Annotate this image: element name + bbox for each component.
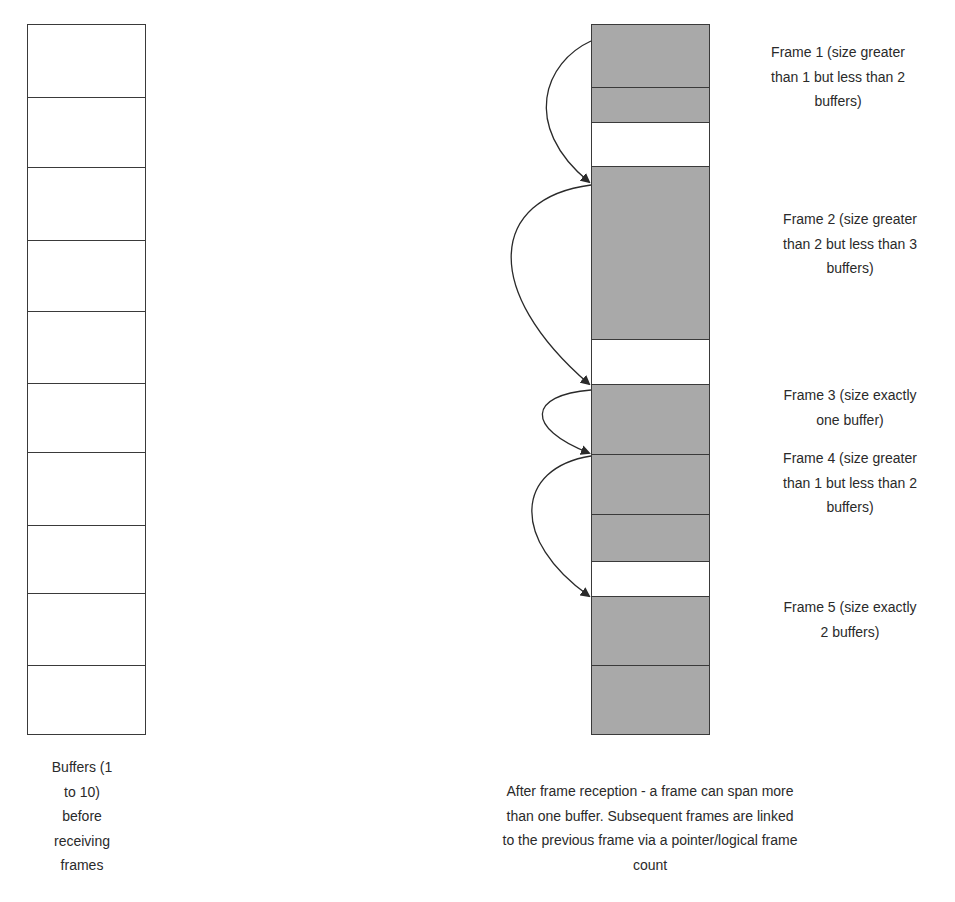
- caption-line: than one buffer. Subsequent frames are l…: [500, 804, 800, 829]
- annotation-line: buffers): [752, 495, 948, 520]
- annotation-line: than 1 but less than 2: [752, 471, 948, 496]
- caption-line: After frame reception - a frame can span…: [500, 779, 800, 804]
- annotation-line: Frame 1 (size greater: [740, 40, 936, 65]
- frame-5-annotation: Frame 5 (size exactly 2 buffers): [752, 595, 948, 644]
- link-arrow-4-to-5: [532, 456, 591, 596]
- annotation-line: than 1 but less than 2: [740, 65, 936, 90]
- link-arrow-2-to-3: [511, 185, 591, 384]
- annotation-line: buffers): [740, 89, 936, 114]
- filled-buffers-caption: After frame reception - a frame can span…: [500, 779, 800, 877]
- frame-3-annotation: Frame 3 (size exactly one buffer): [752, 383, 948, 432]
- frame-1-annotation: Frame 1 (size greater than 1 but less th…: [740, 40, 936, 114]
- link-arrow-3-to-4: [542, 390, 591, 453]
- link-arrow-1-to-2: [546, 41, 591, 182]
- caption-line: count: [500, 853, 800, 878]
- annotation-line: Frame 4 (size greater: [752, 446, 948, 471]
- annotation-line: than 2 but less than 3: [752, 232, 948, 257]
- frame-2-annotation: Frame 2 (size greater than 2 but less th…: [752, 207, 948, 281]
- annotation-line: Frame 2 (size greater: [752, 207, 948, 232]
- annotation-line: Frame 5 (size exactly: [752, 595, 948, 620]
- annotation-line: 2 buffers): [752, 620, 948, 645]
- annotation-line: Frame 3 (size exactly: [752, 383, 948, 408]
- frame-4-annotation: Frame 4 (size greater than 1 but less th…: [752, 446, 948, 520]
- annotation-line: buffers): [752, 256, 948, 281]
- annotation-line: one buffer): [752, 408, 948, 433]
- caption-line: to the previous frame via a pointer/logi…: [500, 828, 800, 853]
